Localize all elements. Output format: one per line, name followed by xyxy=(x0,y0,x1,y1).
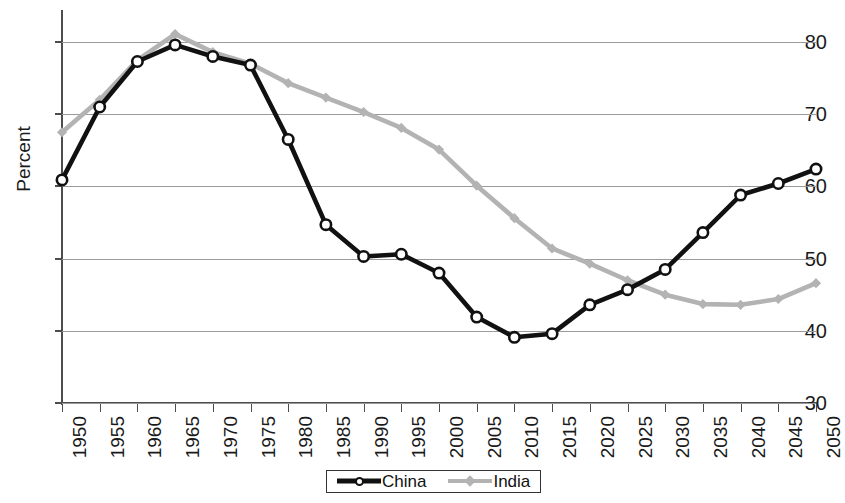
x-tick-mark xyxy=(326,403,327,412)
x-tick-mark xyxy=(703,403,704,412)
data-point-marker xyxy=(622,284,632,294)
data-point-marker xyxy=(585,300,595,310)
data-point-marker xyxy=(773,178,783,188)
x-tick-label: 2050 xyxy=(823,416,845,458)
plot-area xyxy=(62,12,816,403)
data-point-marker xyxy=(321,219,331,229)
data-point-marker xyxy=(208,51,218,61)
series-line xyxy=(62,34,816,305)
data-point-marker xyxy=(660,264,670,274)
x-tick-mark xyxy=(477,403,478,412)
x-tick-label: 2040 xyxy=(748,416,770,458)
x-tick-mark xyxy=(401,403,402,412)
x-tick-label: 2025 xyxy=(635,416,657,458)
data-point-marker xyxy=(245,60,255,70)
x-tick-mark xyxy=(590,403,591,412)
x-tick-mark xyxy=(288,403,289,412)
x-tick-mark xyxy=(552,403,553,412)
x-tick-mark xyxy=(137,403,138,412)
x-tick-label: 1950 xyxy=(69,416,91,458)
x-tick-label: 2015 xyxy=(559,416,581,458)
x-tick-label: 2010 xyxy=(521,416,543,458)
x-tick-mark xyxy=(665,403,666,412)
series-layer xyxy=(62,12,816,403)
x-tick-label: 2000 xyxy=(446,416,468,458)
data-point-marker xyxy=(472,312,482,322)
data-point-marker xyxy=(547,328,557,338)
x-tick-mark xyxy=(251,403,252,412)
legend-item-india: India xyxy=(448,473,530,490)
data-point-marker xyxy=(95,102,105,112)
x-tick-label: 2005 xyxy=(484,416,506,458)
x-tick-label: 1980 xyxy=(295,416,317,458)
x-tick-mark xyxy=(741,403,742,412)
x-tick-label: 1960 xyxy=(144,416,166,458)
data-point-marker xyxy=(434,268,444,278)
x-tick-mark xyxy=(364,403,365,412)
x-tick-mark xyxy=(628,403,629,412)
legend-label-india: India xyxy=(493,473,530,490)
data-point-marker xyxy=(396,249,406,259)
x-tick-label: 2030 xyxy=(672,416,694,458)
x-tick-label: 2045 xyxy=(785,416,807,458)
legend-line-icon-india xyxy=(448,474,492,488)
x-tick-label: 1975 xyxy=(258,416,280,458)
data-point-marker xyxy=(811,164,821,174)
chart-legend: China India xyxy=(326,470,541,493)
x-tick-label: 1990 xyxy=(371,416,393,458)
x-tick-label: 1970 xyxy=(220,416,242,458)
x-tick-label: 1955 xyxy=(107,416,129,458)
legend-item-china: China xyxy=(337,473,426,490)
data-point-marker xyxy=(735,190,745,200)
data-point-marker xyxy=(509,332,519,342)
series-line xyxy=(62,45,816,337)
legend-label-china: China xyxy=(382,473,426,490)
x-tick-mark xyxy=(100,403,101,412)
x-tick-mark xyxy=(514,403,515,412)
data-point-marker xyxy=(736,300,746,310)
x-tick-mark xyxy=(175,403,176,412)
data-point-marker xyxy=(698,227,708,237)
data-point-marker xyxy=(132,56,142,66)
x-tick-label: 1995 xyxy=(408,416,430,458)
data-point-marker xyxy=(170,40,180,50)
x-tick-mark xyxy=(62,403,63,412)
data-point-marker xyxy=(358,251,368,261)
data-point-marker xyxy=(57,175,67,185)
x-tick-mark xyxy=(778,403,779,412)
x-tick-label: 2035 xyxy=(710,416,732,458)
series-china xyxy=(57,40,821,343)
legend-line-icon-china xyxy=(337,474,381,488)
x-tick-mark xyxy=(213,403,214,412)
x-tick-label: 1965 xyxy=(182,416,204,458)
x-tick-label: 1985 xyxy=(333,416,355,458)
x-tick-mark xyxy=(439,403,440,412)
y-axis-title: Percent xyxy=(13,109,35,209)
data-point-marker xyxy=(698,299,708,309)
data-point-marker xyxy=(283,134,293,144)
x-tick-label: 2020 xyxy=(597,416,619,458)
x-tick-mark xyxy=(816,403,817,412)
gridline xyxy=(62,403,816,404)
